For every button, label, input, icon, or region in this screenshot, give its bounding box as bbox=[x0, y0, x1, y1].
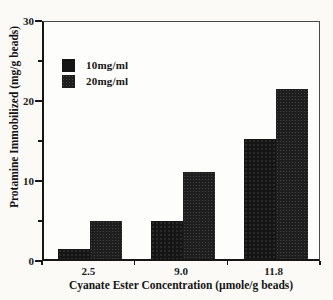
bar-chart-figure: Protamine Immobilized (mg/g beads) 10mg/… bbox=[0, 0, 333, 300]
bar-20mgml-118 bbox=[276, 89, 308, 259]
x-boundary-tick bbox=[134, 261, 136, 265]
legend: 10mg/ml20mg/ml bbox=[62, 57, 128, 89]
x-tick-label: 11.8 bbox=[254, 265, 294, 277]
y-minor-tick bbox=[38, 60, 42, 62]
legend-swatch-icon bbox=[62, 59, 75, 72]
x-tick-label: 9.0 bbox=[161, 265, 201, 277]
bar-10mgml-118 bbox=[244, 139, 276, 259]
y-tick-label: 0 bbox=[8, 256, 34, 267]
y-tick-label: 20 bbox=[8, 96, 34, 107]
y-minor-tick bbox=[38, 140, 42, 142]
y-major-tick bbox=[35, 100, 42, 102]
bar-10mgml-90 bbox=[151, 221, 183, 259]
y-tick-label: 30 bbox=[8, 16, 34, 27]
legend-label: 20mg/ml bbox=[86, 75, 128, 87]
bar-10mgml-25 bbox=[58, 249, 90, 259]
x-boundary-tick bbox=[41, 261, 43, 265]
y-major-tick bbox=[35, 20, 42, 22]
legend-item-10mgml: 10mg/ml bbox=[62, 57, 128, 73]
y-minor-tick bbox=[38, 220, 42, 222]
y-tick-label: 10 bbox=[8, 176, 34, 187]
x-boundary-tick bbox=[227, 261, 229, 265]
legend-label: 10mg/ml bbox=[86, 59, 128, 71]
y-major-tick bbox=[35, 180, 42, 182]
legend-swatch-icon bbox=[62, 75, 75, 88]
legend-item-20mgml: 20mg/ml bbox=[62, 73, 128, 89]
bar-20mgml-25 bbox=[90, 221, 122, 259]
x-boundary-tick bbox=[319, 261, 321, 265]
x-tick-label: 2.5 bbox=[68, 265, 108, 277]
x-axis-title: Cyanate Ester Concentration (µmole/g bea… bbox=[42, 279, 320, 291]
bar-20mgml-90 bbox=[183, 172, 215, 259]
